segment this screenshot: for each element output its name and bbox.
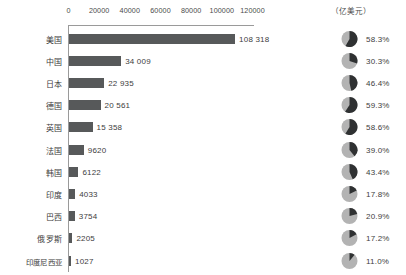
bar-value-label: 15 358 xyxy=(97,123,123,132)
share-pie-chart xyxy=(341,230,358,247)
x-tick-label: 60000 xyxy=(150,6,171,15)
x-tick-label: 40000 xyxy=(120,6,141,15)
bar xyxy=(69,100,101,110)
share-pie-chart xyxy=(341,52,358,69)
share-pie-chart xyxy=(341,185,358,202)
x-axis-line xyxy=(68,25,254,26)
bar-value-label: 9620 xyxy=(88,145,107,154)
category-label: 德国 xyxy=(0,100,62,111)
chart-row: 俄罗斯220517.2% xyxy=(0,227,406,249)
x-tick-label: 20000 xyxy=(89,6,110,15)
share-percent-label: 30.3% xyxy=(366,56,390,65)
x-tick-label: 120000 xyxy=(240,6,265,15)
x-tick-label: 0 xyxy=(66,6,70,15)
share-pie-chart xyxy=(341,141,358,158)
category-label: 韩国 xyxy=(0,166,62,177)
chart-row: 美国108 31858.3% xyxy=(0,28,406,50)
x-axis: 020000400006000080000100000120000 （亿美元） xyxy=(0,0,406,26)
share-percent-label: 17.8% xyxy=(366,189,390,198)
bar xyxy=(69,56,121,66)
x-tick-label: 100000 xyxy=(210,6,235,15)
share-pie-chart xyxy=(341,74,358,91)
chart-row: 英国15 35858.6% xyxy=(0,116,406,138)
chart-row: 日本22 93546.4% xyxy=(0,72,406,94)
category-label: 印度 xyxy=(0,188,62,199)
bar xyxy=(69,256,71,266)
bar-value-label: 3754 xyxy=(79,212,98,221)
category-label: 巴西 xyxy=(0,211,62,222)
bar xyxy=(69,78,104,88)
share-percent-label: 39.0% xyxy=(366,145,390,154)
share-percent-label: 43.4% xyxy=(366,167,390,176)
bar-value-label: 1027 xyxy=(75,256,94,265)
category-label: 法国 xyxy=(0,144,62,155)
category-label: 中国 xyxy=(0,55,62,66)
bar xyxy=(69,167,78,177)
share-pie-chart xyxy=(341,208,358,225)
share-percent-label: 11.0% xyxy=(366,256,389,265)
bar-value-label: 22 935 xyxy=(108,78,134,87)
bar xyxy=(69,145,84,155)
chart-row: 巴西375420.9% xyxy=(0,205,406,227)
category-label: 英国 xyxy=(0,122,62,133)
bar-value-label: 20 561 xyxy=(105,101,131,110)
share-pie-chart xyxy=(341,119,358,136)
bar xyxy=(69,34,235,44)
share-pie-chart xyxy=(341,97,358,114)
share-percent-label: 20.9% xyxy=(366,212,390,221)
bar-value-label: 2205 xyxy=(76,234,95,243)
chart-row: 印度尼西亚102711.0% xyxy=(0,250,406,272)
bar xyxy=(69,233,72,243)
bar-value-label: 4033 xyxy=(79,189,98,198)
chart-row: 法国962039.0% xyxy=(0,139,406,161)
chart-row: 德国20 56159.3% xyxy=(0,94,406,116)
unit-header: （亿美元） xyxy=(331,5,371,16)
bar xyxy=(69,211,75,221)
share-percent-label: 58.3% xyxy=(366,34,390,43)
share-percent-label: 59.3% xyxy=(366,101,390,110)
share-pie-chart xyxy=(341,30,358,47)
bar xyxy=(69,189,75,199)
x-tick-label: 80000 xyxy=(181,6,202,15)
bar-value-label: 6122 xyxy=(82,167,101,176)
category-label: 印度尼西亚 xyxy=(0,255,62,266)
chart-row: 印度403317.8% xyxy=(0,183,406,205)
bar-value-label: 108 318 xyxy=(239,34,269,43)
share-percent-label: 17.2% xyxy=(366,234,390,243)
category-label: 俄罗斯 xyxy=(0,233,62,244)
bar-value-label: 34 009 xyxy=(125,56,151,65)
share-pie-chart xyxy=(341,252,358,269)
chart-row: 中国34 00930.3% xyxy=(0,50,406,72)
bar xyxy=(69,122,93,132)
share-percent-label: 46.4% xyxy=(366,78,390,87)
bar-chart: 020000400006000080000100000120000 （亿美元） … xyxy=(0,0,406,275)
share-percent-label: 58.6% xyxy=(366,123,390,132)
chart-row: 韩国612243.4% xyxy=(0,161,406,183)
category-label: 日本 xyxy=(0,77,62,88)
category-label: 美国 xyxy=(0,33,62,44)
share-pie-chart xyxy=(341,163,358,180)
